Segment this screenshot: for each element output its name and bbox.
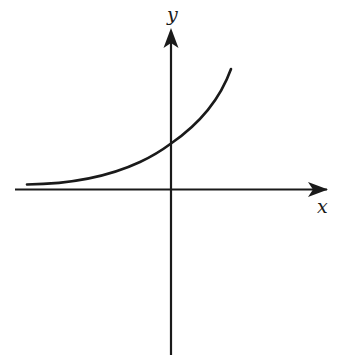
x-axis-label: x (317, 195, 328, 217)
y-axis-label: y (166, 3, 178, 25)
graph-canvas: y x (0, 0, 341, 357)
exponential-curve (27, 69, 231, 185)
